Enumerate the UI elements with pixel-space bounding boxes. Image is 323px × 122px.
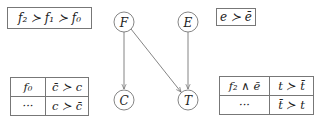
table-row: ··· c ≻ c̄: [11, 97, 89, 116]
node-f-label: F: [119, 16, 129, 30]
table-row: ··· t̄ ≻ t: [220, 96, 314, 115]
e-preference-box: e ≻ ē: [216, 8, 256, 26]
node-e-label: E: [183, 16, 193, 30]
table-row: f₂ ∧ ē t ≻ t̄: [220, 77, 314, 96]
cpt-table-t: f₂ ∧ ē t ≻ t̄ ··· t̄ ≻ t: [219, 76, 314, 115]
cpt-t-condition: f₂ ∧ ē: [220, 77, 270, 96]
cpt-t-condition: ···: [220, 96, 270, 115]
cpt-c-preference: c̄ ≻ c: [46, 78, 89, 97]
node-e: E: [178, 12, 198, 32]
cpt-c-condition: ···: [11, 97, 46, 116]
node-t: T: [178, 90, 198, 110]
edge-f-to-t: [131, 29, 181, 92]
node-f: F: [114, 12, 134, 32]
cpt-t-preference: t̄ ≻ t: [270, 96, 314, 115]
cpt-c-condition: f₀: [11, 78, 46, 97]
f-preference-text: f₂ ≻ f₁ ≻ f₀: [18, 11, 81, 25]
table-row: f₀ c̄ ≻ c: [11, 78, 89, 97]
e-preference-text: e ≻ ē: [220, 10, 252, 24]
f-preference-box: f₂ ≻ f₁ ≻ f₀: [7, 7, 92, 29]
cpt-c-preference: c ≻ c̄: [46, 97, 89, 116]
node-t-label: T: [184, 94, 193, 108]
cpt-t-preference: t ≻ t̄: [270, 77, 314, 96]
node-c: C: [114, 90, 134, 110]
node-c-label: C: [119, 94, 128, 108]
cpt-table-c: f₀ c̄ ≻ c ··· c ≻ c̄: [10, 77, 89, 116]
